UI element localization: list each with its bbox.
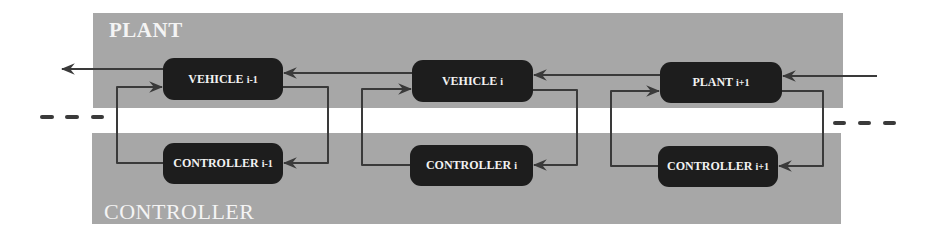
wire-controller-im1-to-vehicle-im1	[117, 87, 163, 163]
box-label: CONTROLLER	[173, 156, 258, 171]
vehicle-i-minus-1-box: VEHICLEi-1	[163, 58, 283, 100]
controller-i-box: CONTROLLERi	[410, 145, 533, 186]
plant-i-plus-1-box: PLANTi+1	[660, 62, 782, 103]
box-index: i	[514, 160, 517, 171]
controller-i-plus-1-box: CONTROLLERi+1	[658, 146, 778, 187]
box-index: i-1	[247, 74, 258, 85]
box-label: VEHICLE	[442, 74, 497, 89]
wire-vehicle-im1-to-controller-im1	[283, 87, 328, 163]
box-label: CONTROLLER	[667, 159, 752, 174]
box-label: PLANT	[692, 75, 733, 90]
wire-controller-ip1-to-plant-ip1	[611, 91, 659, 166]
box-index: i+1	[736, 77, 749, 88]
box-index: i-1	[262, 158, 273, 169]
wire-plant-ip1-to-controller-ip1	[779, 91, 823, 166]
box-index: i+1	[755, 161, 768, 172]
connection-wires	[0, 0, 931, 248]
controller-i-minus-1-box: CONTROLLERi-1	[163, 143, 283, 184]
wire-vehicle-i-to-controller-i	[533, 90, 577, 165]
vehicle-i-box: VEHICLEi	[412, 60, 533, 102]
wire-controller-i-to-vehicle-i	[362, 89, 411, 165]
box-label: CONTROLLER	[426, 158, 511, 173]
box-label: VEHICLE	[188, 72, 243, 87]
box-index: i	[500, 76, 503, 87]
